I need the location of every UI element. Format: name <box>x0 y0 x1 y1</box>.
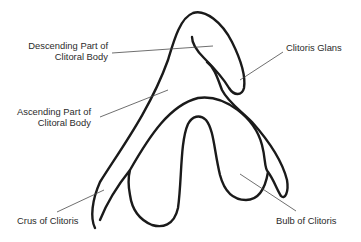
glans-inner-outline <box>207 62 288 197</box>
outer-arch-outline <box>100 98 268 227</box>
label-ascending-part: Ascending Part of Clitoral Body <box>17 106 91 128</box>
label-descending-line1: Descending Part of <box>28 40 108 51</box>
label-ascending-line2: Clitoral Body <box>17 117 91 128</box>
label-descending-line2: Clitoral Body <box>28 51 108 62</box>
leader-ascending <box>100 90 168 117</box>
outer-body-outline <box>92 12 244 228</box>
label-clitoris-glans: Clitoris Glans <box>286 42 342 53</box>
label-crus-of-clitoris: Crus of Clitoris <box>17 215 78 226</box>
label-descending-part: Descending Part of Clitoral Body <box>28 40 108 62</box>
label-bulb-line1: Bulb of Clitoris <box>276 215 336 226</box>
leader-crus <box>57 190 104 212</box>
label-crus-line1: Crus of Clitoris <box>17 215 78 226</box>
label-ascending-line1: Ascending Part of <box>17 106 91 117</box>
label-bulb-of-clitoris: Bulb of Clitoris <box>276 215 336 226</box>
label-glans-line1: Clitoris Glans <box>286 42 342 53</box>
leader-glans <box>240 52 283 80</box>
